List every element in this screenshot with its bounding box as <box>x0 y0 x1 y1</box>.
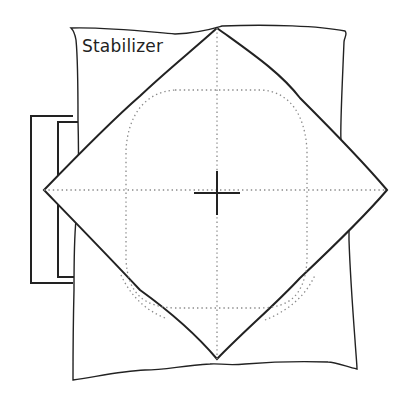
stabilizer-label: Stabilizer <box>82 36 163 56</box>
stabilizer-diagram <box>0 0 408 397</box>
